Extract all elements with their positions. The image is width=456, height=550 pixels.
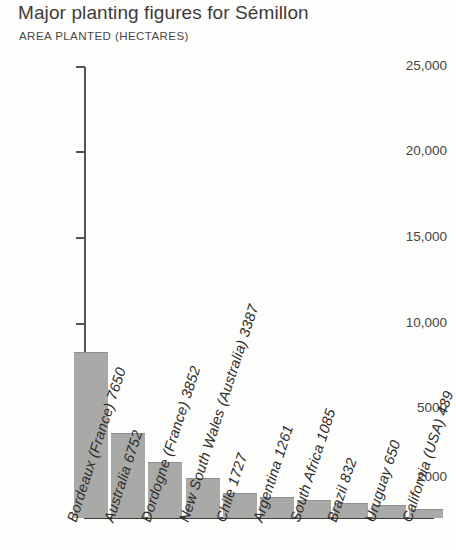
chart-title: Major planting figures for Sémillon bbox=[18, 2, 309, 24]
y-axis-tick-label: 20,000 bbox=[395, 143, 447, 158]
y-axis-tick-label: 15,000 bbox=[395, 229, 447, 244]
chart-subtitle: AREA PLANTED (HECTARES) bbox=[19, 30, 189, 42]
y-axis-tick-mark bbox=[76, 323, 85, 325]
y-axis-tick-label: 10,000 bbox=[395, 315, 447, 330]
y-axis-tick-mark bbox=[76, 66, 85, 68]
y-axis-tick-mark bbox=[76, 237, 85, 239]
y-axis-tick-mark bbox=[76, 151, 85, 153]
y-axis-tick-label: 25,000 bbox=[395, 58, 447, 73]
